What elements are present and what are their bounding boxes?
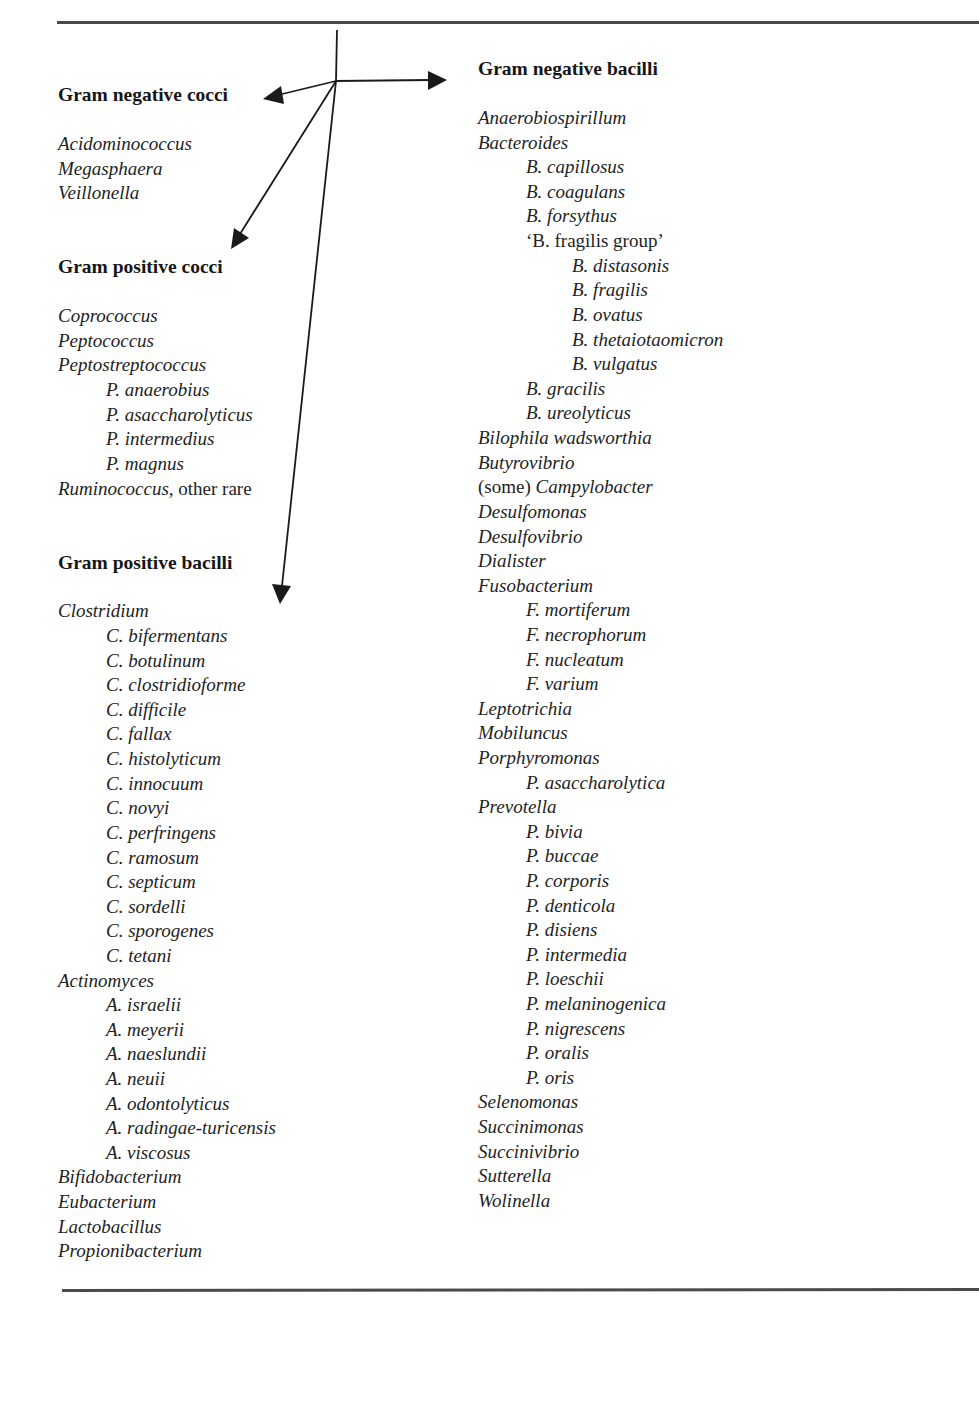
list-item: B. capillosus [526, 155, 624, 179]
arrow-line-gram-negative-bacilli [336, 80, 430, 81]
bottom-rule [62, 1288, 979, 1292]
taxon-name: Campylobacter [536, 476, 653, 497]
arrowhead-down-icon [272, 584, 291, 604]
list-item: Eubacterium [58, 1190, 156, 1214]
list-item: Propionibacterium [58, 1239, 202, 1263]
list-item: Leptotrichia [478, 697, 572, 721]
list-item: C. tetani [106, 944, 171, 968]
heading-gram-positive-bacilli: Gram positive bacilli [58, 551, 232, 575]
list-item: Prevotella [478, 795, 556, 819]
list-item: F. nucleatum [526, 648, 624, 672]
list-item: Peptostreptococcus [58, 353, 206, 377]
list-item: Fusobacterium [478, 574, 593, 598]
list-item: B. ureolyticus [526, 401, 631, 425]
list-item: A. israelii [106, 993, 181, 1017]
list-item: A. radingae-turicensis [106, 1116, 276, 1140]
list-item: C. septicum [106, 870, 196, 894]
list-item: C. sordelli [106, 895, 186, 919]
list-item: F. varium [526, 672, 598, 696]
list-item: Coprococcus [58, 304, 158, 328]
arrow-line-gram-negative-cocci [278, 81, 336, 95]
list-item: Butyrovibrio [478, 451, 574, 475]
list-item: P. asaccharolyticus [106, 403, 253, 427]
list-item: A. neuii [106, 1067, 165, 1091]
list-item: Bacteroides [478, 131, 568, 155]
list-item: Selenomonas [478, 1090, 578, 1114]
taxon-qualifier: (some) [478, 476, 536, 497]
list-item: F. mortiferum [526, 598, 630, 622]
list-item: B. gracilis [526, 377, 605, 401]
list-item: B. fragilis [572, 278, 648, 302]
list-item: C. bifermentans [106, 624, 227, 648]
list-item: P. asaccharolytica [526, 771, 665, 795]
list-item: Actinomyces [58, 969, 154, 993]
heading-gram-positive-cocci: Gram positive cocci [58, 255, 223, 279]
arrowhead-left-icon [263, 86, 284, 104]
list-item: Peptococcus [58, 329, 154, 353]
list-item: Acidominococcus [58, 132, 192, 156]
list-item: B. coagulans [526, 180, 625, 204]
list-item: Veillonella [58, 181, 139, 205]
list-item: Bifidobacterium [58, 1165, 181, 1189]
list-item: Sutterella [478, 1164, 551, 1188]
list-item: B. vulgatus [572, 352, 658, 376]
list-item: P. disiens [526, 918, 597, 942]
list-item: B. ovatus [572, 303, 643, 327]
list-item: (some) Campylobacter [478, 475, 653, 499]
list-item: Megasphaera [58, 157, 162, 181]
heading-gram-negative-cocci: Gram negative cocci [58, 83, 228, 107]
list-item: C. histolyticum [106, 747, 221, 771]
list-item: Succinivibrio [478, 1140, 579, 1164]
list-item: C. botulinum [106, 649, 205, 673]
list-item: P. denticola [526, 894, 615, 918]
arrow-line-gram-positive-bacilli [282, 81, 336, 586]
list-item: P. loeschii [526, 967, 604, 991]
list-item: P. oralis [526, 1041, 589, 1065]
list-item: Wolinella [478, 1189, 550, 1213]
list-item: Bilophila wadsworthia [478, 426, 652, 450]
group-label: ‘B. fragilis group’ [526, 229, 664, 253]
list-item: Porphyromonas [478, 746, 600, 770]
list-item: C. difficile [106, 698, 186, 722]
list-item: P. bivia [526, 820, 583, 844]
list-item: B. thetaiotaomicron [572, 328, 723, 352]
list-item: A. viscosus [106, 1141, 190, 1165]
list-item: P. nigrescens [526, 1017, 625, 1041]
list-item: P. magnus [106, 452, 184, 476]
list-item: Clostridium [58, 599, 149, 623]
list-item: P. oris [526, 1066, 574, 1090]
list-item: Mobiluncus [478, 721, 568, 745]
list-item: Dialister [478, 549, 546, 573]
list-item: P. intermedia [526, 943, 627, 967]
list-item: C. novyi [106, 796, 169, 820]
list-item: C. innocuum [106, 772, 203, 796]
list-item: Ruminococcus, other rare [58, 477, 252, 501]
list-item: P. melaninogenica [526, 992, 666, 1016]
list-item: Desulfomonas [478, 500, 587, 524]
list-item: B. forsythus [526, 204, 617, 228]
list-item: C. clostridioforme [106, 673, 245, 697]
list-item: A. naeslundii [106, 1042, 206, 1066]
list-item: Lactobacillus [58, 1215, 161, 1239]
list-item: C. fallax [106, 722, 171, 746]
list-item: C. ramosum [106, 846, 199, 870]
stem-line [336, 30, 337, 81]
list-item: A. odontolyticus [106, 1092, 229, 1116]
list-item: Desulfovibrio [478, 525, 583, 549]
list-item: P. anaerobius [106, 378, 209, 402]
list-item: F. necrophorum [526, 623, 646, 647]
arrowhead-down-left-icon [231, 228, 249, 249]
list-item: B. distasonis [572, 254, 669, 278]
taxon-name: Ruminococcus [58, 478, 169, 499]
list-item: Succinimonas [478, 1115, 584, 1139]
list-item: C. sporogenes [106, 919, 214, 943]
taxon-note: , other rare [169, 478, 252, 499]
list-item: P. buccae [526, 844, 598, 868]
list-item: P. corporis [526, 869, 609, 893]
heading-gram-negative-bacilli: Gram negative bacilli [478, 57, 658, 81]
list-item: C. perfringens [106, 821, 216, 845]
list-item: Anaerobiospirillum [478, 106, 626, 130]
list-item: P. intermedius [106, 427, 214, 451]
arrowhead-right-icon [428, 71, 447, 90]
list-item: A. meyerii [106, 1018, 184, 1042]
